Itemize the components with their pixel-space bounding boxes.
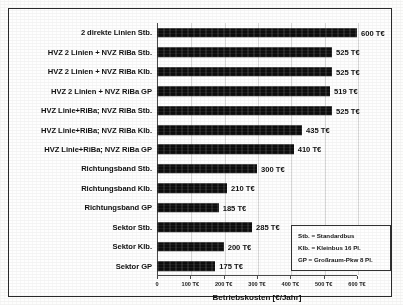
tick-mark <box>357 276 358 279</box>
legend-entry: GP = Großraum-Pkw 8 Pl. <box>298 254 385 266</box>
bar <box>157 67 332 77</box>
bar-value-label: 600 T€ <box>357 28 385 37</box>
bar-row: HVZ Linie+RiBa; NVZ RiBa Stb.525 T€ <box>157 101 357 120</box>
bar <box>157 47 332 57</box>
tick-mark <box>257 276 258 279</box>
bar <box>157 184 227 194</box>
bar-value-label: 300 T€ <box>257 164 285 173</box>
tick-label: 100 T€ <box>182 281 199 287</box>
bar-value-label: 525 T€ <box>332 67 360 76</box>
tick-label: 400 T€ <box>282 281 299 287</box>
bar <box>157 106 332 116</box>
tick-mark <box>290 276 291 279</box>
legend-entry: Stb. = Standardbus <box>298 230 385 242</box>
bar-value-label: 519 T€ <box>330 87 358 96</box>
category-label: HVZ Linie+RiBa; NVZ RiBa GP <box>44 140 157 159</box>
category-label: HVZ Linie+RiBa; NVZ RiBa Klb. <box>41 120 157 139</box>
bar-value-label: 175 T€ <box>215 262 243 271</box>
tick-label: 500 T€ <box>315 281 332 287</box>
category-label: Richtungsband Klb. <box>81 179 157 198</box>
bar <box>157 242 224 252</box>
tick-mark <box>324 276 325 279</box>
legend-box: Stb. = StandardbusKlb. = Kleinbus 16 Pl.… <box>291 225 391 271</box>
bar-value-label: 285 T€ <box>252 223 280 232</box>
bar-row: HVZ Linie+RiBa; NVZ RiBa Klb.435 T€ <box>157 120 357 139</box>
category-label: Richtungsband Stb. <box>81 159 157 178</box>
tick-label: 200 T€ <box>215 281 232 287</box>
tick-label: 600 T€ <box>348 281 365 287</box>
bar-value-label: 525 T€ <box>332 48 360 57</box>
bar <box>157 223 252 233</box>
bar <box>157 145 294 155</box>
bar <box>157 164 257 174</box>
category-label: HVZ Linie+RiBa; NVZ RiBa Stb. <box>41 101 157 120</box>
tick-label: 300 T€ <box>248 281 265 287</box>
chart-outer-frame: 2 direkte Linien Stb.600 T€HVZ 2 Linien … <box>8 8 392 297</box>
bar-row: Richtungsband Stb.300 T€ <box>157 159 357 178</box>
bar-value-label: 435 T€ <box>302 126 330 135</box>
bar-row: HVZ 2 Linien + NVZ RiBa Klb.525 T€ <box>157 62 357 81</box>
category-label: Richtungsband GP <box>84 198 157 217</box>
category-label: Sektor Klb. <box>112 237 157 256</box>
bar-value-label: 200 T€ <box>224 242 252 251</box>
tick-mark <box>157 276 158 279</box>
bar-row: 2 direkte Linien Stb.600 T€ <box>157 23 357 42</box>
bar-row: Richtungsband Klb.210 T€ <box>157 179 357 198</box>
chart-page: 2 direkte Linien Stb.600 T€HVZ 2 Linien … <box>0 0 403 305</box>
category-label: HVZ 2 Linien + NVZ RiBa GP <box>51 81 157 100</box>
tick-mark <box>190 276 191 279</box>
bar <box>157 203 219 213</box>
bar-value-label: 525 T€ <box>332 106 360 115</box>
bar-value-label: 210 T€ <box>227 184 255 193</box>
bar-row: HVZ 2 Linien + NVZ RiBa Stb.525 T€ <box>157 42 357 61</box>
category-label: Sektor GP <box>116 257 157 276</box>
bar <box>157 262 215 272</box>
bar-row: Richtungsband GP185 T€ <box>157 198 357 217</box>
tick-mark <box>224 276 225 279</box>
bar <box>157 125 302 135</box>
category-label: HVZ 2 Linien + NVZ RiBa Klb. <box>48 62 157 81</box>
bar-row: HVZ 2 Linien + NVZ RiBa GP519 T€ <box>157 81 357 100</box>
legend-entry: Klb. = Kleinbus 16 Pl. <box>298 242 385 254</box>
x-axis-title: Betriebskosten [€/Jahr] <box>157 293 357 302</box>
bar <box>157 86 330 96</box>
bar-value-label: 185 T€ <box>219 203 247 212</box>
bar-value-label: 410 T€ <box>294 145 322 154</box>
tick-label: 0 <box>155 281 158 287</box>
category-label: Sektor Stb. <box>112 218 157 237</box>
category-label: HVZ 2 Linien + NVZ RiBa Stb. <box>48 42 157 61</box>
category-label: 2 direkte Linien Stb. <box>81 23 157 42</box>
bar <box>157 28 357 38</box>
bar-row: HVZ Linie+RiBa; NVZ RiBa GP410 T€ <box>157 140 357 159</box>
